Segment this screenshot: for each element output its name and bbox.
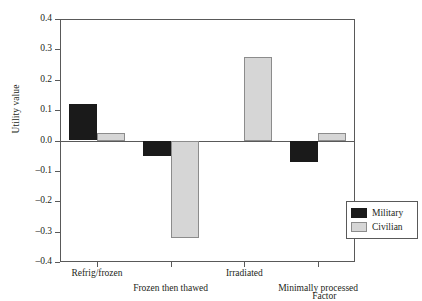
legend-item-military: Military	[351, 206, 413, 220]
y-tick-mark	[55, 262, 60, 263]
y-tick-label: 0.4	[26, 14, 52, 23]
legend-swatch-military-icon	[351, 208, 367, 218]
x-tick-label: Irradiated	[226, 268, 263, 278]
x-tick-mark	[171, 262, 172, 267]
y-tick-label: –0.3	[26, 227, 52, 236]
bar-civilian-3	[318, 133, 346, 141]
y-tick-label: –0.4	[26, 257, 52, 266]
y-tick-label: –0.2	[26, 196, 52, 205]
x-tick-label: Frozen then thawed	[133, 283, 208, 293]
bar-military-0	[69, 104, 97, 140]
bar-civilian-2	[244, 57, 272, 141]
bar-military-3	[290, 141, 318, 162]
bar-civilian-0	[97, 133, 125, 141]
bar-military-1	[143, 141, 171, 156]
y-axis-title: Utility value	[11, 49, 21, 169]
legend-item-civilian: Civilian	[351, 220, 413, 234]
x-tick-mark	[244, 262, 245, 267]
chart-legend: Military Civilian	[346, 201, 418, 239]
y-tick-label: 0.1	[26, 105, 52, 114]
x-tick-mark	[318, 262, 319, 267]
y-tick-label: 0.2	[26, 75, 52, 84]
legend-swatch-civilian-icon	[351, 222, 367, 232]
y-tick-label: –0.1	[26, 166, 52, 175]
bar-civilian-1	[171, 141, 199, 238]
legend-label-military: Military	[372, 208, 403, 218]
x-tick-mark	[97, 262, 98, 267]
x-tick-label: Refrig/frozen	[71, 268, 122, 278]
legend-label-civilian: Civilian	[372, 222, 403, 232]
y-tick-label: 0.0	[26, 136, 52, 145]
y-tick-label: 0.3	[26, 44, 52, 53]
x-axis-title: Factor	[312, 291, 336, 301]
